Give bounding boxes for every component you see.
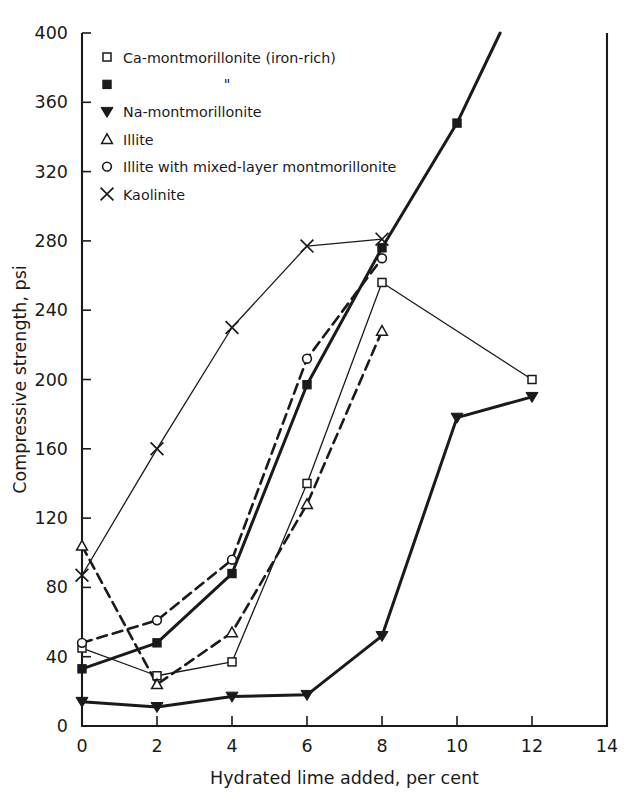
data-point-4-0 [78, 638, 87, 647]
y-tick-label: 160 [35, 439, 68, 459]
y-tick-label: 400 [35, 23, 68, 43]
y-tick-label: 240 [35, 300, 68, 320]
legend-marker-1 [103, 80, 111, 88]
legend-marker-3 [102, 134, 113, 144]
data-point-3-4 [377, 326, 388, 336]
data-point-4-2 [228, 555, 237, 564]
legend-label-0: Ca-montmorillonite (iron-rich) [123, 50, 336, 66]
data-point-0-5 [528, 376, 536, 384]
x-tick-label: 0 [76, 736, 87, 756]
y-tick-label: 80 [46, 577, 68, 597]
x-tick-label: 10 [446, 736, 468, 756]
legend-marker-0 [103, 53, 111, 61]
data-point-1-0 [78, 665, 86, 673]
data-point-2-5 [451, 413, 463, 423]
y-tick-label: 320 [35, 162, 68, 182]
data-point-3-0 [77, 540, 88, 550]
series-line-4 [82, 258, 382, 643]
x-tick-label: 6 [301, 736, 312, 756]
data-point-4-1 [153, 616, 162, 625]
data-point-0-2 [228, 658, 236, 666]
data-point-1-4 [378, 244, 386, 252]
data-point-1-5 [453, 119, 461, 127]
y-tick-label: 40 [46, 647, 68, 667]
legend-label-1: " [224, 76, 231, 92]
data-point-3-2 [227, 627, 238, 637]
y-tick-label: 120 [35, 508, 68, 528]
x-tick-label: 4 [226, 736, 237, 756]
x-tick-label: 8 [376, 736, 387, 756]
legend-marker-5 [101, 188, 114, 201]
series-line-2 [82, 397, 532, 707]
legend-marker-4 [103, 162, 112, 171]
legend-label-5: Kaolinite [123, 187, 185, 203]
legend-marker-2 [101, 107, 113, 117]
x-tick-label: 12 [521, 736, 543, 756]
data-point-5-1 [151, 442, 164, 455]
series-line-5 [82, 239, 382, 575]
legend-label-2: Na-montmorillonite [123, 104, 262, 120]
data-point-4-3 [303, 354, 312, 363]
y-tick-label: 280 [35, 231, 68, 251]
x-tick-label: 2 [151, 736, 162, 756]
data-point-1-2 [228, 569, 236, 577]
y-tick-label: 360 [35, 92, 68, 112]
data-point-0-3 [303, 479, 311, 487]
legend-label-3: Illite [123, 132, 154, 148]
figure-container: 0408012016020024028032036040002468101214… [0, 0, 632, 795]
data-point-3-3 [302, 499, 313, 509]
data-point-5-2 [226, 321, 239, 334]
x-axis-label: Hydrated lime added, per cent [210, 768, 479, 788]
data-point-1-3 [303, 381, 311, 389]
data-point-1-1 [153, 639, 161, 647]
x-tick-label: 14 [596, 736, 618, 756]
data-point-4-4 [378, 254, 387, 263]
data-point-0-4 [378, 278, 386, 286]
legend-label-4: Illite with mixed-layer montmorillonite [123, 159, 397, 175]
y-axis-label: Compressive strength, psi [10, 265, 30, 493]
y-tick-label: 0 [57, 716, 68, 736]
compressive-strength-chart: 0408012016020024028032036040002468101214… [0, 0, 632, 795]
y-tick-label: 200 [35, 370, 68, 390]
series-line-1 [82, 33, 500, 669]
